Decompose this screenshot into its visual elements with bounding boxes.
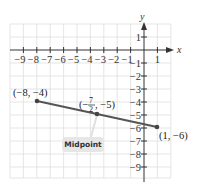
svg-text:1: 1 <box>136 32 141 43</box>
svg-text:−3: −3 <box>130 84 141 95</box>
svg-text:1: 1 <box>155 54 160 65</box>
svg-text:2: 2 <box>89 105 93 114</box>
svg-text:−9: −9 <box>130 162 141 173</box>
svg-text:−1: −1 <box>130 58 141 69</box>
svg-text:−5: −5 <box>68 54 79 65</box>
point-endpoint-1 <box>35 99 40 104</box>
svg-text:−4: −4 <box>81 54 93 65</box>
point-midpoint <box>95 112 100 117</box>
x-axis <box>10 47 174 53</box>
svg-text:−8: −8 <box>130 149 141 160</box>
midpoint-callout: Midpoint <box>62 137 104 152</box>
y-axis-arrow-icon <box>141 22 147 30</box>
x-axis-arrow-icon <box>166 47 174 53</box>
svg-text:−2: −2 <box>130 71 141 82</box>
connector-line <box>91 115 97 137</box>
svg-text:−2: −2 <box>108 54 119 65</box>
svg-text:−9: −9 <box>14 54 25 65</box>
svg-text:−6: −6 <box>130 123 141 134</box>
svg-text:, −5): , −5) <box>95 99 115 111</box>
svg-text:−6: −6 <box>55 54 66 65</box>
y-axis <box>141 22 147 182</box>
svg-text:−7: −7 <box>130 136 141 147</box>
svg-text:−5: −5 <box>130 110 141 121</box>
svg-text:−7: −7 <box>41 54 52 65</box>
svg-text:−3: −3 <box>95 54 106 65</box>
svg-text:−8: −8 <box>28 54 39 65</box>
label-endpoint-2: (1, −6) <box>159 130 188 142</box>
svg-text:−4: −4 <box>130 97 142 108</box>
svg-text:(−: (− <box>79 99 88 111</box>
label-endpoint-1: (−8, −4) <box>13 87 48 99</box>
svg-text:7: 7 <box>89 96 93 105</box>
y-axis-label: y <box>139 11 145 22</box>
point-endpoint-2 <box>155 125 160 130</box>
coordinate-plane: x y −9 −8 −7 −6 −5 −4 −3 −2 −1 1 1 −1 −2… <box>0 0 199 188</box>
x-axis-label: x <box>176 44 182 55</box>
